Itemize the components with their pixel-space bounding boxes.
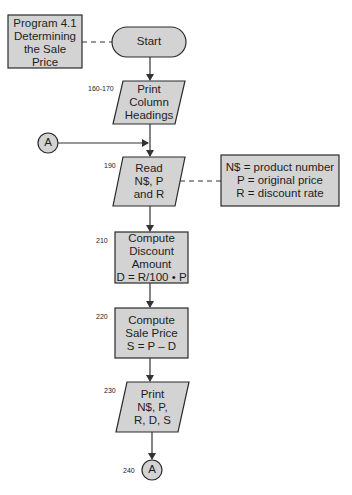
start-label: Start — [112, 35, 186, 48]
line-number-label: 220 — [96, 313, 108, 320]
variable-annotation: N$ = product number P = original price R… — [221, 161, 339, 200]
line-number-label: 230 — [104, 387, 116, 394]
connector-letter: A — [38, 136, 58, 149]
node-text-line: N$, P, — [116, 401, 189, 414]
node-text-line: Headings — [112, 109, 186, 122]
compute-sale-node: Compute Sale Price S = P – D — [115, 314, 188, 353]
annotation-line: N$ = product number — [221, 161, 339, 174]
node-text-line: Read — [112, 162, 186, 175]
connector-a-entry: A — [38, 136, 58, 149]
line-number-label: 210 — [96, 237, 108, 244]
node-text-line: Column — [112, 96, 186, 109]
node-text-line: Compute — [115, 232, 188, 245]
connector-letter: A — [142, 463, 162, 476]
title-line: Program 4.1 — [8, 17, 82, 30]
node-text-line: Print — [112, 83, 186, 96]
node-text-line: and R — [112, 188, 186, 201]
start-terminal: Start — [112, 35, 186, 48]
read-input-node: Read N$, P and R — [112, 162, 186, 201]
node-text-line: Amount — [115, 258, 188, 271]
print-headings-node: Print Column Headings — [112, 83, 186, 122]
node-text-line: R, D, S — [116, 414, 189, 427]
node-text-line: D = R/100 • P — [115, 271, 188, 284]
connector-a-end: A — [142, 463, 162, 476]
title-line: the Sale — [8, 43, 82, 56]
annotation-line: P = original price — [221, 174, 339, 187]
node-text-line: N$, P — [112, 175, 186, 188]
node-text-line: Compute — [115, 314, 188, 327]
node-text-line: Sale Price — [115, 327, 188, 340]
line-number-label: 240 — [123, 467, 135, 474]
title-box: Program 4.1 Determining the Sale Price — [8, 17, 82, 69]
print-output-node: Print N$, P, R, D, S — [116, 388, 189, 427]
title-line: Determining — [8, 30, 82, 43]
annotation-line: R = discount rate — [221, 187, 339, 200]
line-number-label: 160-170 — [88, 85, 114, 92]
node-text-line: S = P – D — [115, 340, 188, 353]
compute-discount-node: Compute Discount Amount D = R/100 • P — [115, 232, 188, 284]
title-line: Price — [8, 56, 82, 69]
node-text-line: Discount — [115, 245, 188, 258]
node-text-line: Print — [116, 388, 189, 401]
